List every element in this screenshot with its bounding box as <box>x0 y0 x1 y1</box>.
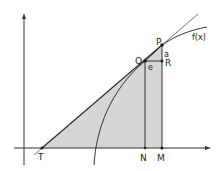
label-a: a <box>164 50 169 59</box>
y-axis-arrow-icon <box>22 13 26 19</box>
label-P: P <box>156 37 162 47</box>
point-M <box>160 146 163 149</box>
label-function: f(x) <box>192 33 206 42</box>
point-T <box>40 146 43 149</box>
tangent-diagram: T N M Q P R a e f(x) <box>0 0 220 171</box>
label-e: e <box>148 63 153 72</box>
label-R: R <box>165 58 171 68</box>
diagram-canvas: T N M Q P R a e f(x) <box>0 0 220 171</box>
label-N: N <box>140 153 147 163</box>
label-Q: Q <box>135 56 142 66</box>
label-T: T <box>37 152 44 162</box>
point-Q <box>143 59 147 63</box>
point-N <box>144 147 147 150</box>
point-R <box>160 59 163 62</box>
x-axis-arrow-icon <box>205 146 211 150</box>
label-M: M <box>157 153 165 163</box>
